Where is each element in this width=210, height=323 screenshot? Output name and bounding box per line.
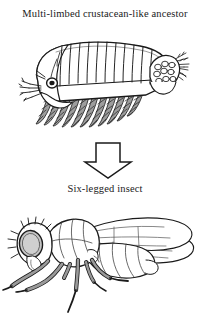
arrow-down-icon (85, 143, 131, 178)
evolution-figure: Multi-limbed crustacean-like ancestor (0, 0, 210, 323)
caption-crustacean-ancestor: Multi-limbed crustacean-like ancestor (0, 8, 210, 19)
caption-six-legged-insect: Six-legged insect (0, 183, 210, 194)
